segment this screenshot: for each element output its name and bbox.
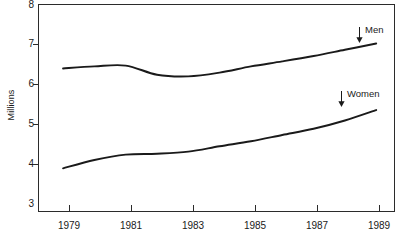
series-line-women — [63, 110, 376, 168]
axis-frame — [38, 4, 395, 212]
series-line-men — [63, 44, 376, 77]
chart-canvas — [0, 0, 401, 238]
line-chart: Millions 8 7 6 5 4 3 1979 1981 1983 1985… — [0, 0, 401, 238]
y-axis-ticks — [33, 45, 38, 165]
down-arrow-icon-men — [356, 27, 362, 43]
x-axis-ticks — [70, 205, 380, 212]
down-arrow-icon-women — [338, 91, 344, 107]
